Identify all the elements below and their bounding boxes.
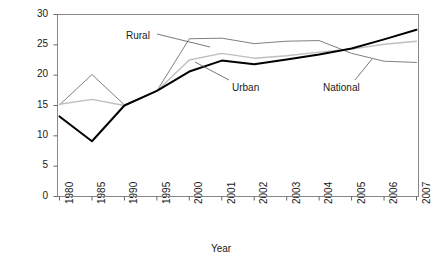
chart-figure: Rate of saving (% of income) 05101520253… <box>0 0 442 261</box>
leader-line-national <box>355 59 372 80</box>
series-label-national: National <box>323 82 360 93</box>
plot-border <box>58 15 419 197</box>
series-label-urban: Urban <box>232 82 259 93</box>
plot-canvas <box>0 0 442 261</box>
axis-tick-marks <box>54 15 417 201</box>
series-line-rural <box>60 38 417 105</box>
leader-line-rural <box>157 34 210 47</box>
x-axis-title: Year <box>0 243 442 254</box>
plot-frame <box>58 15 419 197</box>
series-label-rural: Rural <box>126 30 150 41</box>
series-line-national <box>60 41 417 105</box>
